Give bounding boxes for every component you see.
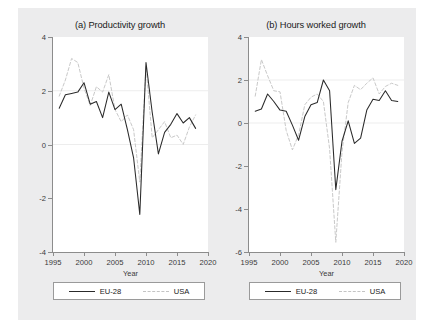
x-tick-mark xyxy=(84,252,85,256)
x-axis-title-a: Year xyxy=(53,269,208,278)
series-line-eu-28 xyxy=(255,80,398,190)
legend-line-solid-icon xyxy=(69,291,95,292)
x-tick-mark xyxy=(146,252,147,256)
y-tick-label: -6 xyxy=(235,248,242,257)
x-tick-label: 2010 xyxy=(334,258,351,267)
legend-line-dashed-icon xyxy=(143,291,169,292)
y-tick-mark xyxy=(244,166,248,167)
y-tick-label: 4 xyxy=(238,33,242,42)
x-axis-line-a xyxy=(52,252,208,253)
y-axis-line-a xyxy=(52,37,53,252)
y-tick-mark xyxy=(48,145,52,146)
series-line-usa xyxy=(59,59,195,183)
legend-label-usa: USA xyxy=(370,287,386,296)
x-tick-label: 1995 xyxy=(241,258,258,267)
plot-svg-a xyxy=(53,37,208,252)
y-tick-mark xyxy=(48,252,52,253)
x-axis-line-b xyxy=(248,252,404,253)
y-axis-line-b xyxy=(248,37,249,252)
y-tick-label: -4 xyxy=(39,248,46,257)
legend-entry-usa-a[interactable]: USA xyxy=(143,287,190,296)
y-tick-label: 0 xyxy=(238,119,242,128)
y-tick-mark xyxy=(244,209,248,210)
x-tick-mark xyxy=(373,252,374,256)
legend-label-eu28: EU-28 xyxy=(100,287,122,296)
y-tick-mark xyxy=(48,91,52,92)
x-tick-mark xyxy=(208,252,209,256)
y-tick-label: 4 xyxy=(42,33,46,42)
x-tick-label: 1995 xyxy=(45,258,62,267)
x-tick-label: 2010 xyxy=(138,258,155,267)
panel-title-a: (a) Productivity growth xyxy=(22,20,218,30)
legend-line-dashed-icon xyxy=(339,291,365,292)
plot-area-b xyxy=(249,37,404,252)
x-tick-mark xyxy=(115,252,116,256)
legend-entry-eu28-b[interactable]: EU-28 xyxy=(265,287,318,296)
y-tick-label: -2 xyxy=(39,194,46,203)
y-tick-mark xyxy=(244,252,248,253)
y-tick-mark xyxy=(244,37,248,38)
legend-line-solid-icon xyxy=(265,291,291,292)
series-line-usa xyxy=(255,60,398,243)
x-tick-mark xyxy=(53,252,54,256)
x-tick-label: 2000 xyxy=(272,258,289,267)
y-tick-label: 2 xyxy=(42,86,46,95)
legend-entry-usa-b[interactable]: USA xyxy=(339,287,386,296)
x-tick-label: 2015 xyxy=(365,258,382,267)
x-tick-label: 2020 xyxy=(396,258,413,267)
chart-panel-productivity-growth: (a) Productivity growth -4-2024 19952000… xyxy=(22,8,218,320)
x-tick-label: 2020 xyxy=(200,258,217,267)
x-tick-mark xyxy=(249,252,250,256)
y-tick-label: 2 xyxy=(238,76,242,85)
y-tick-label: -4 xyxy=(235,205,242,214)
x-tick-mark xyxy=(280,252,281,256)
plot-wrapper-b: -6-4-2024 199520002005201020152020 Year xyxy=(249,37,404,252)
x-axis-title-b: Year xyxy=(249,269,404,278)
x-tick-mark xyxy=(342,252,343,256)
plot-wrapper-a: -4-2024 199520002005201020152020 Year xyxy=(53,37,208,252)
x-tick-label: 2005 xyxy=(303,258,320,267)
plot-area-a xyxy=(53,37,208,252)
x-tick-label: 2005 xyxy=(107,258,124,267)
legend-b: EU-28 USA xyxy=(249,282,401,300)
y-tick-label: -2 xyxy=(235,162,242,171)
y-tick-mark xyxy=(244,123,248,124)
y-tick-mark xyxy=(48,198,52,199)
y-tick-label: 0 xyxy=(42,140,46,149)
panel-title-b: (b) Hours worked growth xyxy=(218,20,414,30)
x-tick-mark xyxy=(404,252,405,256)
x-tick-mark xyxy=(311,252,312,256)
x-tick-mark xyxy=(177,252,178,256)
legend-label-eu28: EU-28 xyxy=(296,287,318,296)
x-tick-label: 2015 xyxy=(169,258,186,267)
y-tick-mark xyxy=(48,37,52,38)
legend-label-usa: USA xyxy=(174,287,190,296)
series-line-eu-28 xyxy=(59,63,195,215)
legend-a: EU-28 USA xyxy=(53,282,205,300)
legend-entry-eu28-a[interactable]: EU-28 xyxy=(69,287,122,296)
figure-canvas: (a) Productivity growth -4-2024 19952000… xyxy=(18,8,416,320)
plot-svg-b xyxy=(249,37,404,252)
x-tick-label: 2000 xyxy=(76,258,93,267)
chart-panel-hours-worked-growth: (b) Hours worked growth -6-4-2024 199520… xyxy=(218,8,414,320)
y-tick-mark xyxy=(244,80,248,81)
